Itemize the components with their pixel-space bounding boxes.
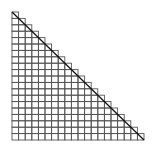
grid-cell: [45, 82, 52, 88]
grid-cell: [71, 127, 78, 133]
grid-cell: [32, 102, 39, 108]
grid-cell: [12, 108, 19, 114]
grid-cell: [12, 127, 19, 133]
grid-cell: [104, 121, 111, 127]
grid-cell: [19, 25, 26, 31]
grid-cell: [71, 121, 78, 127]
grid-cell: [71, 134, 78, 140]
grid-cell: [32, 50, 39, 56]
grid-cell: [45, 70, 52, 76]
grid-cell: [38, 127, 45, 133]
grid-cell: [38, 44, 45, 50]
grid-cell: [45, 63, 52, 69]
grid-cell: [45, 127, 52, 133]
grid-cell: [52, 114, 59, 120]
grid-cell: [38, 114, 45, 120]
grid-cell: [38, 89, 45, 95]
grid-cell: [32, 76, 39, 82]
grid-cell: [65, 127, 72, 133]
grid-cell: [91, 108, 98, 114]
grid-cell: [85, 108, 92, 114]
grid-cell: [38, 57, 45, 63]
grid-cell: [91, 102, 98, 108]
grid-cell: [25, 89, 32, 95]
grid-cell: [65, 121, 72, 127]
grid-cell: [131, 134, 138, 140]
grid-cell: [12, 44, 19, 50]
grid-cell: [58, 108, 65, 114]
grid-cell: [12, 31, 19, 37]
grid-cell: [78, 89, 85, 95]
grid-cell: [38, 82, 45, 88]
grid-cell: [91, 134, 98, 140]
grid-cell: [111, 114, 118, 120]
grid-cell: [25, 95, 32, 101]
grid-cell: [19, 108, 26, 114]
grid-cell: [12, 89, 19, 95]
grid-cell: [25, 127, 32, 133]
grid-cell: [71, 95, 78, 101]
grid-cell: [12, 25, 19, 31]
grid-cell: [58, 63, 65, 69]
grid-cell: [12, 38, 19, 44]
grid-cell: [85, 102, 92, 108]
grid-cell: [38, 63, 45, 69]
grid-cell: [12, 50, 19, 56]
grid-cell: [85, 127, 92, 133]
grid-cell: [45, 76, 52, 82]
grid-cell: [78, 102, 85, 108]
grid-cell: [52, 63, 59, 69]
grid-cell: [12, 102, 19, 108]
grid-cell: [78, 108, 85, 114]
grid-cell: [12, 70, 19, 76]
grid-cell: [32, 70, 39, 76]
grid-cell: [91, 127, 98, 133]
grid-cell: [38, 95, 45, 101]
grid-cell: [98, 108, 105, 114]
grid-cell: [32, 89, 39, 95]
grid-cell: [12, 57, 19, 63]
grid-cell: [19, 70, 26, 76]
grid-cell: [104, 127, 111, 133]
grid-cell: [65, 95, 72, 101]
grid-cell: [19, 38, 26, 44]
grid-cell: [25, 50, 32, 56]
grid-cell: [32, 63, 39, 69]
grid-cell: [12, 76, 19, 82]
grid-cell: [118, 121, 125, 127]
grid-cell: [58, 76, 65, 82]
grid-cell: [111, 121, 118, 127]
grid-cell: [78, 127, 85, 133]
grid-cell: [19, 95, 26, 101]
grid-cell: [98, 127, 105, 133]
grid-cell: [19, 76, 26, 82]
grid-cell: [25, 63, 32, 69]
grid-cell: [65, 108, 72, 114]
grid-cell: [38, 108, 45, 114]
grid-cell: [25, 76, 32, 82]
grid-cell: [45, 95, 52, 101]
grid-cell: [58, 114, 65, 120]
grid-cell: [78, 121, 85, 127]
grid-cell: [91, 95, 98, 101]
grid-cell: [19, 121, 26, 127]
grid-cell: [52, 95, 59, 101]
grid-cell: [25, 38, 32, 44]
grid-cell: [118, 127, 125, 133]
grid-cell: [58, 82, 65, 88]
grid-cell: [85, 121, 92, 127]
grid-cell: [25, 108, 32, 114]
grid-cell: [32, 44, 39, 50]
grid-cell: [98, 102, 105, 108]
grid-cell: [25, 134, 32, 140]
grid-cell: [104, 108, 111, 114]
grid-cell: [25, 82, 32, 88]
grid-cell: [71, 114, 78, 120]
grid-cell: [65, 82, 72, 88]
grid-cell: [65, 114, 72, 120]
grid-cell: [58, 102, 65, 108]
grid-cell: [12, 63, 19, 69]
grid-cell: [25, 102, 32, 108]
grid-cell: [19, 31, 26, 37]
grid-cell: [78, 114, 85, 120]
